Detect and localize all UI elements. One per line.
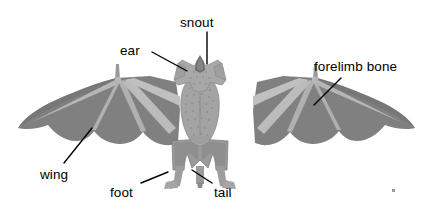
leader-line-foot: [141, 172, 168, 183]
right-wing-group: [253, 64, 415, 145]
label-forelimb-bone: forelimb bone: [314, 60, 397, 74]
label-snout: snout: [180, 16, 214, 30]
label-ear: ear: [120, 44, 140, 58]
left-wing-group: [18, 64, 180, 145]
bat-illustration: [0, 0, 433, 215]
label-foot: foot: [110, 186, 133, 200]
right-shoulder-joint: [312, 77, 318, 83]
left-shoulder-joint: [115, 77, 121, 83]
tail-tip: [197, 182, 203, 188]
tail-membrane-group: [164, 139, 236, 189]
scan-speck: [392, 189, 395, 192]
label-tail: tail: [214, 186, 232, 200]
left-foot: [164, 180, 178, 189]
label-wing: wing: [40, 168, 68, 182]
lower-abdomen: [190, 136, 210, 143]
bat-anatomy-figure: snout ear forelimb bone wing foot tail: [0, 0, 433, 215]
head-group: [174, 55, 226, 92]
